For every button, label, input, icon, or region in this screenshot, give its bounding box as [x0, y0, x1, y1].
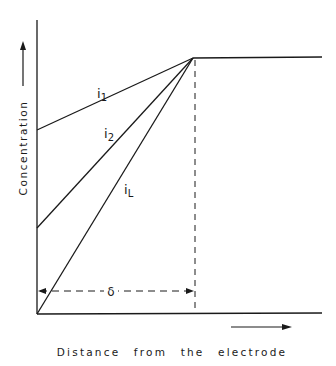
y-axis-label: Concentration	[17, 100, 29, 195]
curve-i2	[37, 58, 193, 228]
curve-iL	[37, 58, 193, 314]
concentration-profile-diagram: δ i1 i2 iL Concentration Distance from t…	[0, 0, 336, 366]
label-iL: iL	[124, 182, 134, 199]
label-i1: i1	[97, 86, 107, 103]
x-axis-arrow-icon	[282, 324, 292, 330]
delta-label: δ	[107, 285, 114, 299]
curve-i1	[37, 58, 193, 130]
x-axis-label: Distance from the electrode	[57, 346, 287, 358]
bulk-concentration-line	[193, 57, 322, 58]
label-i2: i2	[104, 126, 114, 143]
y-axis-arrow-icon	[20, 41, 26, 50]
delta-arrow-left-icon	[38, 288, 46, 294]
x-axis	[37, 313, 322, 314]
delta-arrow-right-icon	[186, 288, 194, 294]
